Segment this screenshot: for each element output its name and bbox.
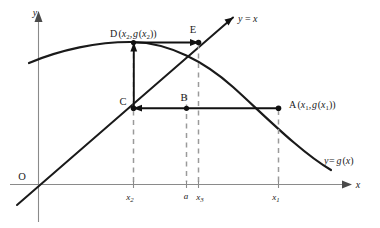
identity-label-y: y [237,13,243,24]
function-label-g: g [337,155,342,166]
x-axis-label: x [355,179,361,190]
label-d-text: D(x2,g(x2)) [110,28,157,40]
point-dot-b [184,106,189,111]
figure-canvas: y x O y=x y=g(x) D(x2,g(x2)) E C B A(x1,… [0,0,380,228]
label-d-close-paren: ) [153,28,156,40]
function-label-close-paren: ) [350,155,353,167]
tick-label-x2-text: x2 [125,192,134,203]
point-markers-group [131,40,282,111]
label-point-d: D(x2,g(x2)) [110,28,157,40]
function-curve [29,42,331,170]
identity-label-x: x [252,13,258,24]
tick-label-x1: x1 [271,192,279,203]
tick-label-x3-text: x3 [195,192,204,203]
label-a-text: A(x1,g(x1)) [289,99,336,111]
label-a-comma: , [309,99,312,110]
label-a-g: g [312,99,317,110]
identity-label-eq: = [245,13,251,24]
identity-label-text: y=x [237,13,258,24]
origin-label: O [18,171,26,182]
identity-line-label: y=x [237,13,258,24]
label-d-g: g [133,28,138,39]
cobweb-path-group [130,39,279,112]
cobweb-figure: y x O y=x y=g(x) D(x2,g(x2)) E C B A(x1,… [0,0,380,228]
label-point-e: E [190,24,196,35]
point-dot-e [196,40,202,46]
tick-label-x2: x2 [125,192,134,203]
dashed-guides-group [134,44,279,182]
label-d-name: D [110,28,117,39]
function-curve-label: y=g(x) [323,155,354,167]
label-d-comma: , [130,28,133,39]
label-a-close-paren: ) [332,99,335,111]
y-axis-label: y [32,7,38,18]
identity-line-group [17,18,233,206]
function-label-text: y=g(x) [323,155,354,167]
tick-label-x3: x3 [195,192,204,203]
function-curve-group [29,42,331,170]
tick-label-a: a [184,191,189,201]
label-a-name: A [289,99,297,110]
point-dot-d [131,40,136,45]
label-point-c: C [119,96,126,107]
function-label-eq: = [329,155,335,166]
tick-label-x1-text: x1 [271,192,279,203]
tick-label-x3-sub: 3 [199,196,204,203]
point-dot-c [131,106,137,112]
tick-label-x2-sub: 2 [130,196,134,203]
tick-label-x1-sub: 1 [276,196,279,203]
point-dot-a [276,106,282,112]
label-point-a: A(x1,g(x1)) [289,99,336,111]
identity-line [17,18,233,206]
label-point-b: B [180,92,187,103]
x-axis-arrowhead [342,181,352,189]
